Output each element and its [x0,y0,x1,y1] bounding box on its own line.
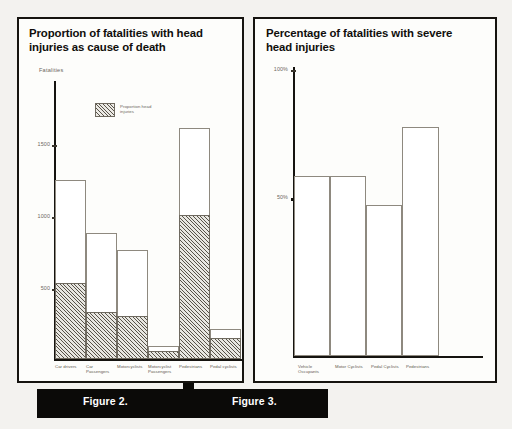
figure-3-caption: Figure 3. [232,395,277,407]
figure-page: Proportion of fatalities with head injur… [0,0,512,429]
y-tick-1500 [52,145,57,147]
bar-headinjury-motorcyclists [117,316,148,359]
x-label-pedestrians: Pedestrians [406,364,442,369]
bar-headinjury-pedestrians [179,215,210,359]
x-label-pedestrians: Pedestrians [179,364,209,369]
bar-headinjury-pedal-cyclists [210,338,241,359]
x-axis-line [293,356,483,358]
y-tick-label-500: 500 [24,285,50,291]
bar-pedal-cyclists [366,205,402,356]
x-label-car-passengers: Car Passengers [86,364,113,374]
x-axis-line [54,359,244,361]
bar-pedestrians [402,127,439,356]
figure-3-panel: Percentage of fatalities with severe hea… [253,17,497,383]
figure-2-title: Proportion of fatalities with head injur… [29,27,234,54]
x-label-motorcyclist-passengers: Motorcyclist Passengers [148,364,178,374]
y-tick-label-1000: 1000 [24,213,50,219]
bar-headinjury-motorcyclist-passengers [148,351,179,359]
bar-headinjury-car-drivers [55,283,86,359]
figure-2-caption: Figure 2. [83,395,128,407]
legend-swatch-head-injuries [95,103,115,117]
figure-2-panel: Proportion of fatalities with head injur… [17,17,244,383]
y-tick-label-1500: 1500 [24,141,50,147]
figure-3-title: Percentage of fatalities with severe hea… [266,27,481,54]
caption-bar: Figure 2. Figure 3. [37,389,328,418]
legend: Proportion head injuries [95,103,165,118]
bar-vehicle-occupants [294,176,330,356]
x-label-pedal-cyclists: Pedal cyclists [210,364,241,369]
x-label-motorcyclists: Motorcyclists [117,364,148,369]
legend-label: Proportion head injuries [120,104,164,114]
y-tick-100 [291,70,296,72]
y-tick-label-50: 50% [261,194,288,200]
x-label-pedal-cyclists: Pedal Cyclists [371,364,401,369]
y-axis-title: Fatalities [39,67,63,73]
bar-headinjury-car-passengers [86,312,117,359]
y-tick-label-100: 100% [261,66,288,72]
bar-motor-cyclists [330,176,366,356]
x-label-vehicle-occupants: Vehicle Occupants [298,364,330,374]
x-label-car-drivers: Car drivers [55,364,85,369]
x-label-motor-cyclists: Motor Cyclists [335,364,365,369]
